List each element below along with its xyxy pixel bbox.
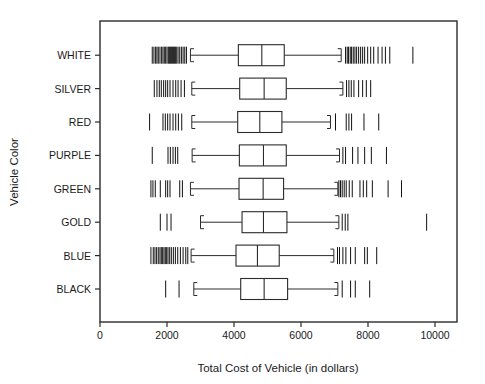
quartile-box bbox=[242, 212, 287, 233]
y-tick-label: RED bbox=[69, 116, 92, 128]
y-axis-title: Vehicle Color bbox=[8, 138, 20, 206]
box-plot-figure: 0200040006000800010000 WHITESILVERREDPUR… bbox=[0, 0, 485, 384]
x-tick-label: 4000 bbox=[222, 329, 246, 341]
quartile-box bbox=[240, 78, 287, 99]
y-tick-label: BLUE bbox=[64, 250, 91, 262]
y-tick-label: SILVER bbox=[54, 83, 91, 95]
x-tick-label: 8000 bbox=[356, 329, 380, 341]
x-tick-label: 2000 bbox=[155, 329, 179, 341]
x-tick-label: 10000 bbox=[420, 329, 449, 341]
y-tick-label: GOLD bbox=[61, 216, 91, 228]
x-axis-title: Total Cost of Vehicle (in dollars) bbox=[197, 362, 358, 374]
quartile-box bbox=[239, 145, 286, 166]
y-tick-label: WHITE bbox=[57, 49, 91, 61]
box-plot-canvas: 0200040006000800010000 WHITESILVERREDPUR… bbox=[0, 0, 485, 384]
y-tick-label: BLACK bbox=[57, 283, 91, 295]
y-tick-label: GREEN bbox=[54, 183, 91, 195]
x-tick-label: 6000 bbox=[289, 329, 313, 341]
y-tick-label: PURPLE bbox=[49, 149, 91, 161]
quartile-box bbox=[239, 178, 284, 199]
x-tick-label: 0 bbox=[97, 329, 103, 341]
